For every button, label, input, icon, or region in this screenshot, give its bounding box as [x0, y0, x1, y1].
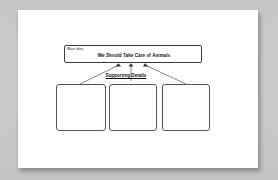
- graphic-organizer: Main Idea We Should Take Care of Animals…: [18, 10, 258, 168]
- screenshot-root: Main Idea We Should Take Care of Animals…: [0, 0, 278, 180]
- supporting-detail-box-1[interactable]: [56, 84, 106, 131]
- supporting-detail-box-2[interactable]: [109, 84, 157, 131]
- worksheet-page: Main Idea We Should Take Care of Animals…: [18, 10, 258, 168]
- supporting-detail-box-3[interactable]: [162, 84, 210, 131]
- supporting-details-heading: Supporting Details: [96, 73, 156, 79]
